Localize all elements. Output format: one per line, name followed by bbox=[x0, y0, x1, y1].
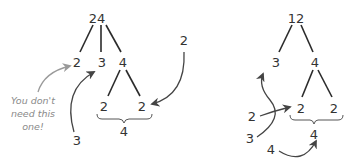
left-callout-3: 3 bbox=[73, 133, 81, 148]
left-child-node-4: 4 bbox=[119, 55, 127, 70]
arrow-3-to-node-right-icon bbox=[257, 74, 275, 137]
right-callout-4: 4 bbox=[267, 142, 275, 157]
right-grandchild-node-2a: 2 bbox=[297, 101, 305, 116]
edge-12-to-4 bbox=[301, 25, 313, 52]
left-factor-tree: 24 2 3 4 2 2 4 You don't need this one! … bbox=[11, 11, 188, 148]
left-grandchild-node-2a: 2 bbox=[100, 99, 108, 114]
right-child-node-4: 4 bbox=[311, 55, 319, 70]
right-root-node: 12 bbox=[288, 11, 305, 26]
edge-4-to-2b-right bbox=[318, 70, 332, 97]
right-brace bbox=[290, 115, 343, 124]
left-callout-2: 2 bbox=[180, 33, 188, 48]
edge-24-to-4 bbox=[106, 25, 121, 52]
left-brace bbox=[97, 114, 152, 123]
gray-arrow-icon bbox=[38, 66, 70, 92]
edge-4-to-2a-right bbox=[302, 70, 313, 97]
factor-trees-diagram: 24 2 3 4 2 2 4 You don't need this one! … bbox=[0, 0, 352, 165]
annotation-line-2: need this bbox=[11, 108, 55, 119]
arrow-4-to-brace-value-icon bbox=[279, 141, 316, 157]
left-child-node-3: 3 bbox=[98, 55, 106, 70]
left-brace-value: 4 bbox=[120, 124, 128, 139]
left-grandchild-node-2b: 2 bbox=[138, 99, 146, 114]
edge-4-to-2b bbox=[126, 70, 140, 96]
edge-24-to-2 bbox=[80, 25, 93, 52]
left-root-node: 24 bbox=[89, 11, 106, 26]
annotation-line-1: You don't bbox=[11, 95, 56, 106]
arrow-3-to-node-icon bbox=[71, 72, 94, 132]
right-factor-tree: 12 3 4 2 2 4 2 3 4 bbox=[246, 11, 343, 157]
right-child-node-3: 3 bbox=[272, 55, 280, 70]
edge-4-to-2a bbox=[108, 70, 120, 96]
arrow-2-to-node-icon bbox=[152, 52, 184, 104]
right-callout-2: 2 bbox=[248, 109, 256, 124]
right-brace-value: 4 bbox=[310, 127, 318, 142]
right-grandchild-node-2b: 2 bbox=[330, 101, 338, 116]
annotation-line-3: one! bbox=[22, 121, 44, 132]
left-child-node-2: 2 bbox=[73, 55, 81, 70]
edge-12-to-3 bbox=[279, 25, 292, 52]
right-callout-3: 3 bbox=[246, 131, 254, 146]
